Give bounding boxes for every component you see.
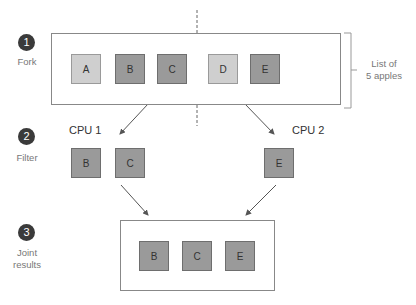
list-of-apples-label: List of 5 apples xyxy=(359,58,409,82)
cpu-1-label: CPU 1 xyxy=(69,124,101,136)
arrow-fork-to-cpu2 xyxy=(245,104,274,134)
apple-b: B xyxy=(115,54,145,84)
cpu-2-label: CPU 2 xyxy=(292,124,324,136)
step-3-badge: 3 xyxy=(18,224,35,241)
arrow-fork-to-cpu1 xyxy=(120,104,148,134)
step-1-badge: 1 xyxy=(18,34,35,51)
list-brace xyxy=(344,33,357,108)
apple-e: E xyxy=(250,54,280,84)
step-2-label: Filter xyxy=(2,152,52,164)
cpu1-apple-c: C xyxy=(115,148,145,178)
joint-apple-b: B xyxy=(139,241,169,271)
brace-label-line2: 5 apples xyxy=(359,70,409,82)
joint-apple-c: C xyxy=(182,241,212,271)
step-1-label: Fork xyxy=(2,56,52,68)
apple-c: C xyxy=(157,54,187,84)
brace-label-line1: List of xyxy=(359,58,409,70)
step-2-badge: 2 xyxy=(18,128,35,145)
step-3-label-line1: Joint xyxy=(2,247,52,259)
arrow-cpu2-to-joint xyxy=(246,185,276,215)
apple-d: D xyxy=(208,54,238,84)
joint-apple-e: E xyxy=(225,241,255,271)
step-3-label: Joint results xyxy=(2,247,52,271)
cpu2-apple-e: E xyxy=(264,148,294,178)
cpu1-apple-b: B xyxy=(71,148,101,178)
apple-a: A xyxy=(71,54,101,84)
step-3-label-line2: results xyxy=(2,259,52,271)
arrow-cpu1-to-joint xyxy=(121,185,148,215)
